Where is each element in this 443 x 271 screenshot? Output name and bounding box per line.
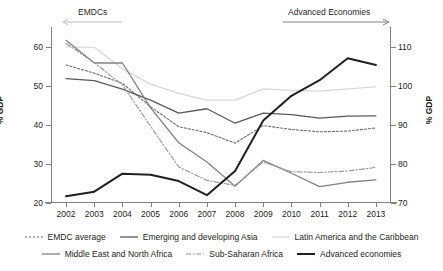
y-axis-left-title: % GDP — [0, 96, 5, 124]
y-axis-right-tick — [391, 164, 396, 165]
y-axis-left-tick-label: 30 — [18, 159, 43, 169]
y-axis-right-tick-label: 110 — [398, 42, 423, 52]
y-axis-left-tick — [46, 86, 51, 87]
legend-row-2: Middle East and North AfricaSub-Saharan … — [0, 245, 443, 262]
y-axis-right-line — [390, 27, 391, 203]
chart-figure: EMDCs Advanced Economies % GDP % GDP 203… — [0, 0, 443, 271]
y-axis-left-tick-label: 20 — [18, 198, 43, 208]
legend-item[interactable]: Advanced economies — [297, 249, 401, 259]
y-axis-left-tick — [46, 47, 51, 48]
legend-swatch-icon — [297, 251, 315, 257]
legend-swatch-icon — [42, 251, 60, 257]
x-axis-tick — [348, 203, 349, 207]
x-axis-tick — [235, 203, 236, 207]
x-axis-tick — [179, 203, 180, 207]
legend-swatch-icon — [120, 234, 138, 240]
y-axis-right-tick-label: 80 — [398, 159, 423, 169]
legend-item[interactable]: Latin America and the Caribbean — [272, 232, 419, 242]
plot-area — [52, 27, 390, 203]
x-axis-tick — [66, 203, 67, 207]
series-line — [66, 79, 376, 124]
legend-item[interactable]: Sub-Saharan Africa — [186, 249, 283, 259]
legend-swatch-icon — [272, 234, 290, 240]
legend-label: EMDC average — [48, 232, 106, 242]
y-axis-left-tick — [46, 164, 51, 165]
legend-swatch-icon — [186, 251, 204, 257]
legend-label: Sub-Saharan Africa — [209, 249, 283, 259]
y-axis-left-tick — [46, 125, 51, 126]
y-axis-right-tick — [391, 203, 396, 204]
legend-label: Emerging and developing Asia — [143, 232, 258, 242]
legend-swatch-icon — [25, 234, 43, 240]
x-axis-tick — [320, 203, 321, 207]
x-axis-tick — [207, 203, 208, 207]
y-axis-right-tick-label: 70 — [398, 198, 423, 208]
legend-label: Middle East and North Africa — [65, 249, 173, 259]
advanced-economies-annotation-label: Advanced Economies — [288, 7, 370, 17]
legend-row-1: EMDC averageEmerging and developing Asia… — [0, 228, 443, 245]
x-axis-tick — [151, 203, 152, 207]
series-line — [66, 43, 376, 185]
y-axis-left-tick — [46, 203, 51, 204]
legend-item[interactable]: Middle East and North Africa — [42, 249, 173, 259]
arrow-left-icon — [60, 18, 122, 26]
x-axis-tick-label: 2013 — [359, 209, 393, 219]
y-axis-left-tick-label: 40 — [18, 120, 43, 130]
y-axis-right-tick — [391, 47, 396, 48]
arrow-right-icon — [283, 18, 391, 26]
legend-label: Advanced economies — [320, 249, 401, 259]
chart-legend: EMDC averageEmerging and developing Asia… — [0, 228, 443, 262]
y-axis-left-tick-label: 60 — [18, 42, 43, 52]
emdcs-annotation-label: EMDCs — [78, 7, 107, 17]
y-axis-right-tick-label: 100 — [398, 81, 423, 91]
legend-item[interactable]: Emerging and developing Asia — [120, 232, 258, 242]
x-axis-tick — [291, 203, 292, 207]
series-line — [66, 40, 376, 186]
y-axis-right-title: % GDP — [424, 96, 434, 124]
series-line — [66, 58, 376, 196]
y-axis-right-tick — [391, 125, 396, 126]
x-axis-tick — [122, 203, 123, 207]
x-axis-tick — [376, 203, 377, 207]
y-axis-right-tick-label: 90 — [398, 120, 423, 130]
y-axis-right-tick — [391, 86, 396, 87]
legend-label: Latin America and the Caribbean — [295, 232, 419, 242]
legend-item[interactable]: EMDC average — [25, 232, 106, 242]
x-axis-tick — [94, 203, 95, 207]
y-axis-left-tick-label: 50 — [18, 81, 43, 91]
x-axis-tick — [263, 203, 264, 207]
